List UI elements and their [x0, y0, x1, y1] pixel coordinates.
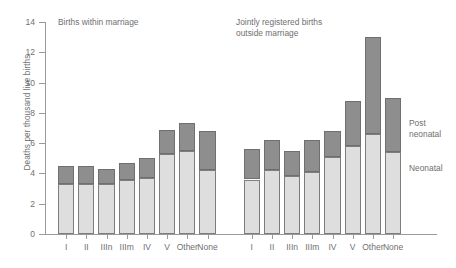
bar-0-ii	[78, 166, 94, 234]
bar-segment-post-neonatal	[199, 131, 215, 170]
x-tick	[66, 234, 67, 239]
bar-segment-neonatal	[179, 151, 195, 234]
bar-segment-neonatal	[264, 170, 280, 234]
x-label-0-iv: IV	[143, 242, 151, 252]
bar-segment-neonatal	[199, 170, 215, 234]
bar-segment-post-neonatal	[385, 98, 401, 153]
bar-1-iv	[324, 131, 340, 234]
y-tick-label: 0	[30, 229, 35, 239]
bar-segment-post-neonatal	[78, 166, 94, 184]
x-label-0-ii: II	[84, 242, 89, 252]
y-tick-12: 12	[39, 52, 46, 53]
bar-1-i	[244, 149, 260, 234]
bar-segment-post-neonatal	[179, 123, 195, 150]
y-tick-label: 14	[26, 17, 35, 27]
bar-segment-neonatal	[159, 154, 175, 234]
x-tick	[292, 234, 293, 239]
y-tick-10: 10	[39, 83, 46, 84]
bar-segment-neonatal	[324, 157, 340, 234]
bar-segment-neonatal	[385, 152, 401, 234]
bar-segment-post-neonatal	[264, 140, 280, 170]
x-tick	[312, 234, 313, 239]
bar-1-other	[365, 37, 381, 234]
bar-segment-post-neonatal	[98, 169, 114, 184]
bar-segment-neonatal	[58, 184, 74, 234]
x-tick	[167, 234, 168, 239]
x-label-1-iv: IV	[328, 242, 336, 252]
bar-segment-neonatal	[98, 184, 114, 234]
y-tick-label: 8	[30, 108, 35, 118]
bar-segment-post-neonatal	[304, 140, 320, 172]
y-tick-8: 8	[39, 113, 46, 114]
legend-label-neonatal: Neonatal	[409, 163, 443, 174]
y-tick-0: 0	[39, 234, 46, 235]
x-tick	[272, 234, 273, 239]
x-tick	[127, 234, 128, 239]
bar-segment-neonatal	[139, 178, 155, 234]
x-label-1-none: None	[383, 242, 403, 252]
x-tick	[147, 234, 148, 239]
y-tick-label: 12	[26, 47, 35, 57]
bar-segment-neonatal	[284, 176, 300, 234]
bar-0-iiim	[119, 163, 135, 234]
bar-0-none	[199, 131, 215, 234]
bar-segment-post-neonatal	[284, 151, 300, 177]
bar-segment-post-neonatal	[58, 166, 74, 184]
x-tick	[252, 234, 253, 239]
y-tick-4: 4	[39, 173, 46, 174]
legend-label-post-neonatal: Post neonatal	[409, 118, 441, 139]
x-label-0-iiim: IIIm	[120, 242, 134, 252]
bar-segment-post-neonatal	[119, 163, 135, 180]
bar-1-iiin	[284, 151, 300, 234]
bar-segment-post-neonatal	[324, 131, 340, 157]
group-title-jointly-registered-births: Jointly registered births outside marria…	[236, 17, 322, 39]
y-tick-2: 2	[39, 204, 46, 205]
x-tick	[107, 234, 108, 239]
group-title-births-within-marriage: Births within marriage	[58, 17, 139, 28]
bar-segment-post-neonatal	[365, 37, 381, 134]
bar-segment-post-neonatal	[159, 130, 175, 154]
bar-segment-post-neonatal	[139, 158, 155, 178]
x-tick	[208, 234, 209, 239]
y-tick-label: 10	[26, 78, 35, 88]
bar-0-iiin	[98, 169, 114, 234]
bar-segment-neonatal	[78, 184, 94, 234]
x-label-0-i: I	[65, 242, 67, 252]
bar-0-iv	[139, 158, 155, 234]
bar-0-other	[179, 123, 195, 234]
bar-1-iiim	[304, 140, 320, 234]
bar-segment-neonatal	[119, 180, 135, 235]
x-label-1-i: I	[251, 242, 253, 252]
y-tick-14: 14	[39, 22, 46, 23]
y-tick-label: 4	[30, 168, 35, 178]
x-tick	[86, 234, 87, 239]
bar-1-v	[345, 101, 361, 234]
bar-1-none	[385, 98, 401, 234]
x-label-1-ii: II	[270, 242, 275, 252]
bar-segment-neonatal	[304, 172, 320, 234]
x-label-0-other: Other	[177, 242, 198, 252]
x-label-1-iiim: IIIm	[305, 242, 319, 252]
stacked-bar-chart: Deaths per thousand live births 02468101…	[0, 0, 456, 268]
x-tick	[373, 234, 374, 239]
x-label-1-other: Other	[362, 242, 383, 252]
bar-1-ii	[264, 140, 280, 234]
x-label-1-iiin: IIIn	[286, 242, 298, 252]
x-axis-line	[45, 234, 437, 235]
x-label-1-v: V	[350, 242, 356, 252]
plot-area	[46, 22, 437, 234]
bar-segment-neonatal	[365, 134, 381, 234]
bar-0-v	[159, 130, 175, 234]
x-tick	[353, 234, 354, 239]
y-tick-6: 6	[39, 143, 46, 144]
bar-segment-neonatal	[244, 180, 260, 235]
bar-0-i	[58, 166, 74, 234]
bar-segment-neonatal	[345, 146, 361, 234]
x-label-0-iiin: IIIn	[101, 242, 113, 252]
x-tick	[187, 234, 188, 239]
x-tick	[333, 234, 334, 239]
x-label-0-none: None	[197, 242, 217, 252]
y-tick-label: 2	[30, 199, 35, 209]
y-tick-label: 6	[30, 138, 35, 148]
x-tick	[393, 234, 394, 239]
